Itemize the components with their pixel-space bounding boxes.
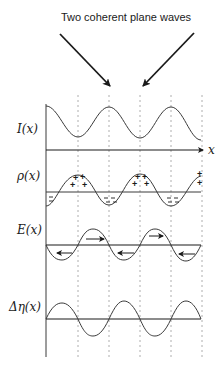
electric-field-label: E(x): [16, 223, 42, 237]
incoming-beam-arrows: [60, 33, 194, 86]
svg-text:+: +: [144, 179, 149, 189]
beam-arrow-right: [143, 33, 194, 86]
charge-density-label: ρ(x): [16, 169, 41, 183]
svg-text:+: +: [132, 179, 137, 189]
intensity-label: I(x): [16, 122, 38, 136]
svg-text:+: +: [197, 178, 202, 188]
intensity-curve: [46, 106, 201, 140]
photorefractive-diagram: Two coherent plane waves I(x) x ρ(x) ++ …: [0, 0, 222, 368]
beam-arrow-left: [60, 34, 110, 86]
x-axis-label: x: [208, 143, 215, 157]
positive-charges: ++ ++ ++ ++ ++: [70, 169, 202, 190]
negative-charges: [49, 197, 179, 202]
charge-curve: [46, 174, 201, 206]
svg-text:+: +: [70, 180, 75, 190]
index-modulation-label: Δη(x): [8, 300, 41, 314]
panel-index-modulation: Δη(x): [8, 300, 201, 336]
diagram-title: Two coherent plane waves: [61, 11, 192, 23]
svg-text:+: +: [82, 180, 87, 190]
panel-electric-field: E(x): [16, 223, 201, 261]
